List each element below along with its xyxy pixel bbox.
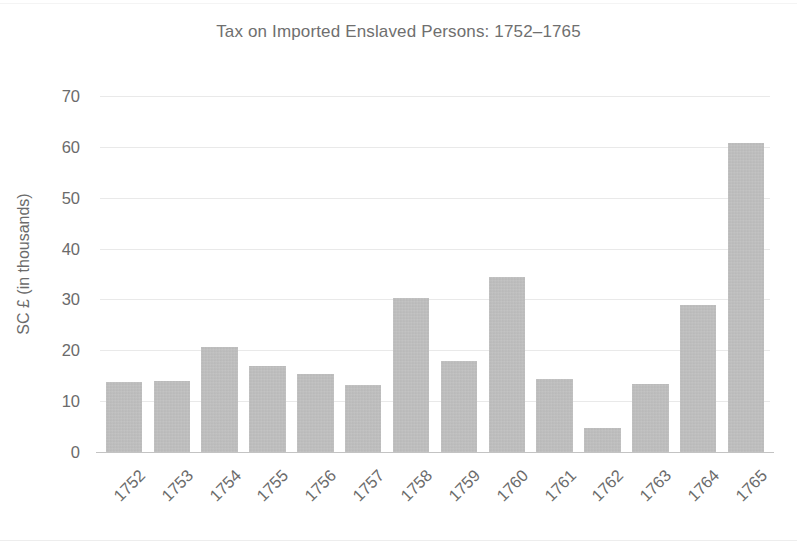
- x-tick-label-1753: 1753: [158, 466, 197, 505]
- bar-1756: [297, 374, 333, 452]
- bar-slot: [674, 96, 722, 452]
- x-tick-slot: 1752: [100, 452, 148, 552]
- x-tick-slot: 1755: [244, 452, 292, 552]
- bar-slot: [722, 96, 770, 452]
- bar-slot: [579, 96, 627, 452]
- x-tick-slot: 1758: [387, 452, 435, 552]
- bar-slot: [148, 96, 196, 452]
- bar-1755: [249, 366, 285, 452]
- x-tick-label-1761: 1761: [540, 466, 579, 505]
- chart-figure: Tax on Imported Enslaved Persons: 1752–1…: [0, 0, 797, 555]
- x-tick-label-1759: 1759: [445, 466, 484, 505]
- x-tick-slot: 1757: [339, 452, 387, 552]
- x-tick-label-1758: 1758: [397, 466, 436, 505]
- x-tick-slot: 1764: [674, 452, 722, 552]
- bar-1762: [584, 428, 620, 452]
- bar-slot: [483, 96, 531, 452]
- y-tick-label-50: 50: [34, 190, 80, 207]
- bar-1757: [345, 385, 381, 452]
- bar-1760: [489, 277, 525, 452]
- bar-slot: [100, 96, 148, 452]
- x-tick-slot: 1763: [626, 452, 674, 552]
- y-tick-label-70: 70: [34, 88, 80, 105]
- page-rule-bottom: [0, 540, 797, 541]
- x-tick-slot: 1756: [291, 452, 339, 552]
- x-tick-slot: 1761: [531, 452, 579, 552]
- bar-series: [100, 96, 770, 452]
- x-tick-label-1752: 1752: [110, 466, 149, 505]
- bar-1753: [154, 381, 190, 452]
- bar-slot: [196, 96, 244, 452]
- bar-1763: [632, 384, 668, 452]
- bar-slot: [339, 96, 387, 452]
- bar-slot: [626, 96, 674, 452]
- x-axis-tick-labels: 1752175317541755175617571758175917601761…: [100, 452, 770, 552]
- bar-slot: [387, 96, 435, 452]
- x-tick-slot: 1765: [722, 452, 770, 552]
- bar-1765: [728, 143, 764, 452]
- y-tick-label-40: 40: [34, 241, 80, 258]
- bar-1759: [441, 361, 477, 452]
- bar-slot: [531, 96, 579, 452]
- y-tick-label-30: 30: [34, 291, 80, 308]
- y-tick-label-60: 60: [34, 139, 80, 156]
- bar-1761: [536, 379, 572, 452]
- bar-1752: [106, 382, 142, 452]
- x-tick-slot: 1753: [148, 452, 196, 552]
- page-rule-top: [0, 3, 797, 4]
- y-tick-label-10: 10: [34, 393, 80, 410]
- x-tick-label-1754: 1754: [205, 466, 244, 505]
- y-tick-label-0: 0: [34, 444, 80, 461]
- bar-1764: [680, 305, 716, 452]
- x-tick-label-1763: 1763: [636, 466, 675, 505]
- y-axis-tick-labels: 010203040506070: [34, 0, 80, 555]
- bar-1758: [393, 298, 429, 452]
- x-tick-label-1760: 1760: [493, 466, 532, 505]
- x-tick-slot: 1754: [196, 452, 244, 552]
- x-tick-slot: 1759: [435, 452, 483, 552]
- x-tick-slot: 1762: [579, 452, 627, 552]
- x-tick-label-1762: 1762: [588, 466, 627, 505]
- x-tick-label-1765: 1765: [732, 466, 771, 505]
- y-tick-label-20: 20: [34, 342, 80, 359]
- chart-title: Tax on Imported Enslaved Persons: 1752–1…: [0, 22, 797, 42]
- bar-slot: [435, 96, 483, 452]
- bar-slot: [244, 96, 292, 452]
- x-tick-slot: 1760: [483, 452, 531, 552]
- x-tick-label-1756: 1756: [301, 466, 340, 505]
- x-tick-label-1757: 1757: [349, 466, 388, 505]
- bar-1754: [201, 347, 237, 452]
- x-tick-label-1755: 1755: [253, 466, 292, 505]
- x-tick-label-1764: 1764: [684, 466, 723, 505]
- y-axis-title: SC £ (in thousands): [15, 154, 33, 374]
- bar-slot: [291, 96, 339, 452]
